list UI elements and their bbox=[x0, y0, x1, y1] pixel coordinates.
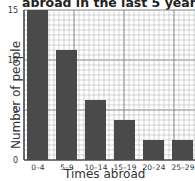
x-tick-5: 25–29 bbox=[169, 163, 195, 172]
bar-1 bbox=[56, 50, 77, 160]
bar-3 bbox=[114, 120, 135, 160]
plot-area bbox=[0, 0, 195, 181]
x-tick-0: 0–4 bbox=[24, 163, 52, 172]
x-axis-label: Times abroad bbox=[64, 167, 145, 181]
bar-5 bbox=[172, 140, 193, 160]
bar-4 bbox=[143, 140, 164, 160]
bar-2 bbox=[85, 100, 106, 160]
bar-0 bbox=[27, 10, 48, 160]
